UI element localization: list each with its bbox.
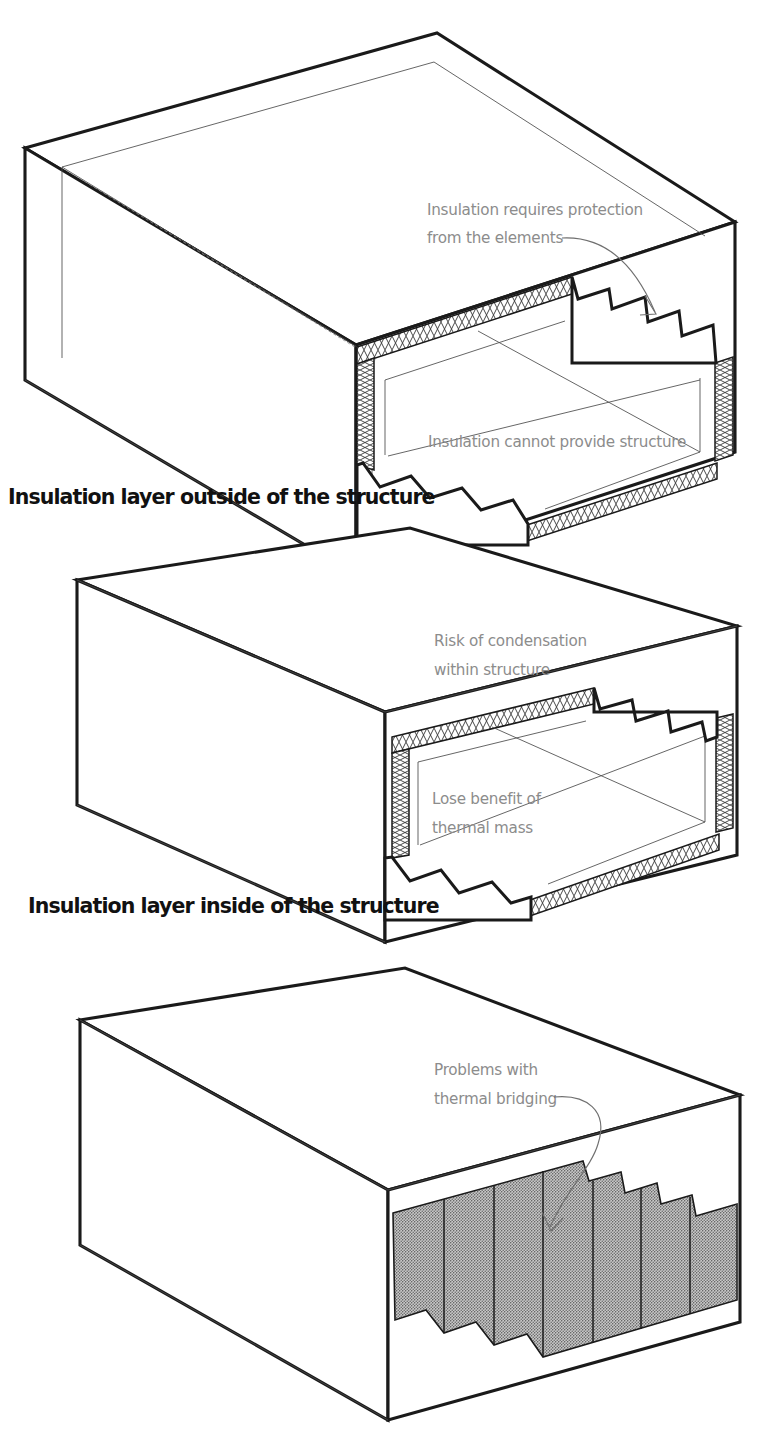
note-line: thermal mass xyxy=(432,819,533,837)
box1-batt-left-jamb xyxy=(357,358,374,470)
note-line: within structure xyxy=(434,661,550,679)
insulation-diagram: Insulation requires protection from the … xyxy=(0,0,763,1455)
box2-batt-right-jamb xyxy=(716,714,733,832)
caption-inside: Insulation layer inside of the structure xyxy=(28,894,439,918)
panel-within-structure: Problems with thermal bridging xyxy=(80,968,740,1420)
box2-batt-left-jamb xyxy=(392,749,409,858)
note-line: Insulation cannot provide structure xyxy=(428,433,686,451)
note-line: Lose benefit of xyxy=(432,790,542,808)
panel-inside-insulation: Risk of condensation within structure Lo… xyxy=(28,528,737,942)
diagram-canvas: Insulation requires protection from the … xyxy=(0,0,763,1455)
annotation-cannot-provide-structure: Insulation cannot provide structure xyxy=(428,433,686,451)
caption-outside: Insulation layer outside of the structur… xyxy=(8,485,435,509)
note-line: from the elements xyxy=(427,229,564,247)
note-line: Risk of condensation xyxy=(434,632,587,650)
panel-outside-insulation: Insulation requires protection from the … xyxy=(8,33,735,575)
note-line: Insulation requires protection xyxy=(427,201,643,219)
note-line: Problems with xyxy=(434,1061,538,1079)
box1-batt-right-jamb xyxy=(715,357,733,461)
note-line: thermal bridging xyxy=(434,1090,557,1108)
